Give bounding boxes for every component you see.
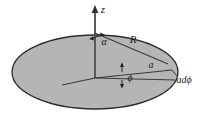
angle-alpha-label: α	[101, 36, 107, 47]
arc-element-label: adϕ	[176, 74, 191, 85]
disk-geometry-diagram: z R α a ϕ adϕ	[0, 0, 201, 122]
radius-a-label: a	[149, 59, 154, 70]
z-axis-arrowhead	[92, 5, 99, 13]
angle-phi-label: ϕ	[127, 72, 132, 83]
radius-R-label: R	[129, 33, 137, 45]
figure-container: z R α a ϕ adϕ	[0, 0, 201, 122]
z-axis-label: z	[100, 3, 106, 15]
